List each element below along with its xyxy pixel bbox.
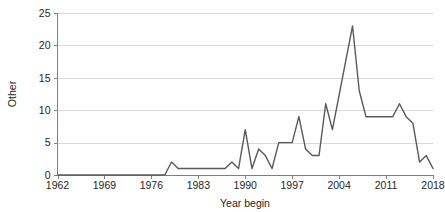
data-series-line [58, 26, 434, 175]
x-tick-label: 1990 [234, 179, 258, 191]
y-axis-ticks: 0510152025 [39, 7, 58, 181]
y-tick-label: 25 [39, 7, 51, 19]
x-tick-label: 2011 [375, 179, 398, 191]
line-chart: 0510152025 19621969197619831990199720042… [0, 0, 445, 212]
axes-group [58, 13, 434, 176]
x-axis-ticks: 196219691976198319901997200420112018 [46, 175, 445, 191]
y-tick-label: 20 [39, 39, 51, 51]
x-axis-title: Year begin [220, 197, 270, 209]
y-tick-label: 5 [45, 136, 51, 148]
y-tick-label: 15 [39, 72, 51, 84]
x-tick-label: 1976 [140, 179, 164, 191]
gridlines-group [58, 14, 434, 144]
chart-container: 0510152025 19621969197619831990199720042… [0, 0, 445, 212]
x-tick-label: 1997 [281, 179, 305, 191]
x-tick-label: 1962 [46, 179, 70, 191]
y-tick-label: 10 [39, 104, 51, 116]
y-axis-title: Other [6, 80, 18, 107]
x-tick-label: 1969 [93, 179, 117, 191]
x-tick-label: 2018 [421, 179, 445, 191]
x-tick-label: 1983 [187, 179, 211, 191]
x-tick-label: 2004 [327, 179, 351, 191]
